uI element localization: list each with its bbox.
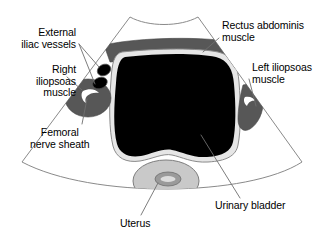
pelvic-ultrasound-diagram: External iliac vessels Right iliopsoas m…: [0, 0, 329, 243]
label-rectus-abdominis-muscle: Rectus abdominis muscle: [222, 20, 304, 43]
urinary-bladder-shape: [114, 54, 235, 157]
uterus-cavity-shape: [161, 176, 176, 182]
label-femoral-nerve-sheath: Femoral nerve sheath: [30, 127, 90, 150]
label-external-iliac-vessels: External iliac vessels: [21, 27, 76, 50]
label-urinary-bladder: Urinary bladder: [215, 200, 285, 212]
label-left-iliopsoas-muscle: Left iliopsoas muscle: [252, 62, 312, 85]
label-right-iliopsoas-muscle: Right iliopsoas muscle: [36, 64, 76, 99]
leader-external-iliac-vessels-upper: [79, 44, 99, 67]
label-uterus: Uterus: [120, 218, 150, 230]
